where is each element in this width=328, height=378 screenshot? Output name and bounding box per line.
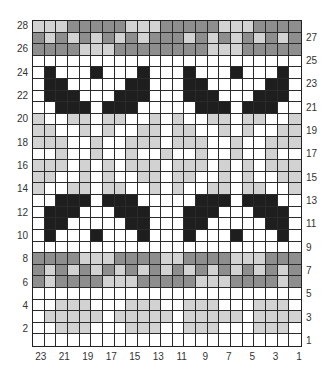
chart-cell — [80, 79, 92, 91]
chart-cell — [126, 334, 138, 346]
chart-cell — [208, 334, 220, 346]
chart-cell — [173, 311, 185, 323]
chart-cell — [231, 207, 243, 219]
chart-cell — [138, 44, 150, 56]
chart-cell — [115, 172, 127, 184]
chart-cell — [219, 56, 231, 68]
chart-cell — [196, 160, 208, 172]
chart-cell — [231, 183, 243, 195]
row-label: 2 — [10, 324, 28, 334]
chart-cell — [80, 195, 92, 207]
row-label: 4 — [10, 301, 28, 311]
chart-cell — [254, 79, 266, 91]
column-label: 15 — [125, 352, 145, 362]
chart-cell — [254, 311, 266, 323]
chart-cell — [231, 91, 243, 103]
chart-cell — [56, 44, 68, 56]
chart-cell — [208, 253, 220, 265]
chart-cell — [289, 242, 301, 254]
chart-cell — [115, 276, 127, 288]
chart-cell — [45, 276, 57, 288]
chart-cell — [161, 33, 173, 45]
chart-cell — [184, 21, 196, 33]
chart-cell — [161, 102, 173, 114]
chart-cell — [150, 323, 162, 335]
chart-cell — [289, 21, 301, 33]
chart-cell — [68, 33, 80, 45]
chart-cell — [173, 149, 185, 161]
chart-cell — [115, 230, 127, 242]
row-label: 7 — [306, 266, 324, 276]
chart-cell — [243, 160, 255, 172]
chart-cell — [243, 137, 255, 149]
chart-cell — [184, 207, 196, 219]
chart-cell — [173, 276, 185, 288]
row-label: 26 — [10, 44, 28, 54]
chart-cell — [266, 218, 278, 230]
chart-cell — [150, 172, 162, 184]
chart-cell — [80, 44, 92, 56]
chart-cell — [243, 33, 255, 45]
chart-cell — [56, 195, 68, 207]
chart-cell — [33, 125, 45, 137]
chart-cell — [45, 160, 57, 172]
chart-cell — [208, 21, 220, 33]
chart-cell — [45, 218, 57, 230]
chart-cell — [266, 265, 278, 277]
chart-cell — [208, 114, 220, 126]
chart-cell — [45, 242, 57, 254]
chart-cell — [33, 102, 45, 114]
chart-cell — [219, 149, 231, 161]
chart-cell — [91, 311, 103, 323]
chart-cell — [103, 125, 115, 137]
chart-cell — [278, 207, 290, 219]
chart-cell — [103, 102, 115, 114]
chart-cell — [115, 323, 127, 335]
chart-cell — [33, 149, 45, 161]
chart-cell — [243, 288, 255, 300]
chart-cell — [56, 311, 68, 323]
chart-cell — [56, 91, 68, 103]
chart-cell — [254, 160, 266, 172]
chart-cell — [91, 253, 103, 265]
chart-cell — [243, 67, 255, 79]
chart-cell — [184, 149, 196, 161]
chart-cell — [173, 172, 185, 184]
chart-cell — [33, 195, 45, 207]
chart-cell — [33, 44, 45, 56]
chart-cell — [208, 172, 220, 184]
chart-cell — [196, 137, 208, 149]
chart-cell — [68, 21, 80, 33]
chart-cell — [56, 67, 68, 79]
chart-cell — [184, 242, 196, 254]
chart-cell — [231, 218, 243, 230]
chart-cell — [138, 300, 150, 312]
chart-cell — [150, 102, 162, 114]
row-label: 13 — [306, 196, 324, 206]
chart-cell — [56, 21, 68, 33]
chart-cell — [115, 125, 127, 137]
row-label: 19 — [306, 126, 324, 136]
chart-cell — [115, 102, 127, 114]
row-label: 20 — [10, 114, 28, 124]
chart-cell — [219, 114, 231, 126]
column-label: 11 — [172, 352, 192, 362]
row-label: 27 — [306, 33, 324, 43]
chart-cell — [219, 44, 231, 56]
chart-cell — [115, 183, 127, 195]
chart-cell — [196, 67, 208, 79]
row-label: 28 — [10, 21, 28, 31]
chart-cell — [184, 137, 196, 149]
chart-cell — [33, 288, 45, 300]
chart-cell — [103, 230, 115, 242]
chart-cell — [33, 218, 45, 230]
chart-cell — [173, 160, 185, 172]
chart-cell — [91, 172, 103, 184]
chart-cell — [184, 172, 196, 184]
chart-cell — [231, 172, 243, 184]
chart-cell — [219, 183, 231, 195]
column-label: 13 — [148, 352, 168, 362]
chart-cell — [150, 183, 162, 195]
chart-cell — [231, 311, 243, 323]
chart-cell — [278, 102, 290, 114]
